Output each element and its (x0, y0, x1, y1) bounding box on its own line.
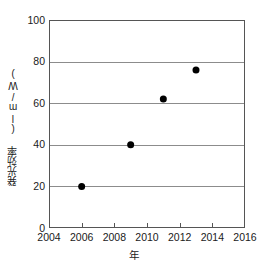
x-tick-label-2004: 2004 (32, 232, 66, 243)
y-axis-title: 発光効率 (lm/W) (2, 68, 24, 188)
y-tick-label-80: 80 (15, 56, 45, 67)
gridlines (49, 63, 245, 187)
y-tick-label-40: 40 (15, 139, 45, 150)
data-point-series (78, 66, 199, 189)
x-tick-label-2016: 2016 (228, 232, 262, 243)
data-point (78, 183, 85, 190)
plot-frame (50, 21, 245, 228)
plot-svg (49, 20, 245, 228)
y-tick-label-20: 20 (15, 181, 45, 192)
y-tick-label-60: 60 (15, 98, 45, 109)
x-tick-label-2014: 2014 (195, 232, 229, 243)
x-tick-label-2012: 2012 (163, 232, 197, 243)
x-axis-title: 年 (0, 250, 267, 261)
x-tick-label-2010: 2010 (130, 232, 164, 243)
luminous-efficacy-scatter-chart: 発光効率 (lm/W) 020406080100 200420062008201… (0, 0, 267, 271)
data-point (127, 141, 134, 148)
x-tick-label-2008: 2008 (97, 232, 131, 243)
x-tick-label-2006: 2006 (65, 232, 99, 243)
y-tick-label-100: 100 (15, 15, 45, 26)
plot-area (49, 20, 245, 228)
data-point (193, 66, 200, 73)
data-point (160, 96, 167, 103)
